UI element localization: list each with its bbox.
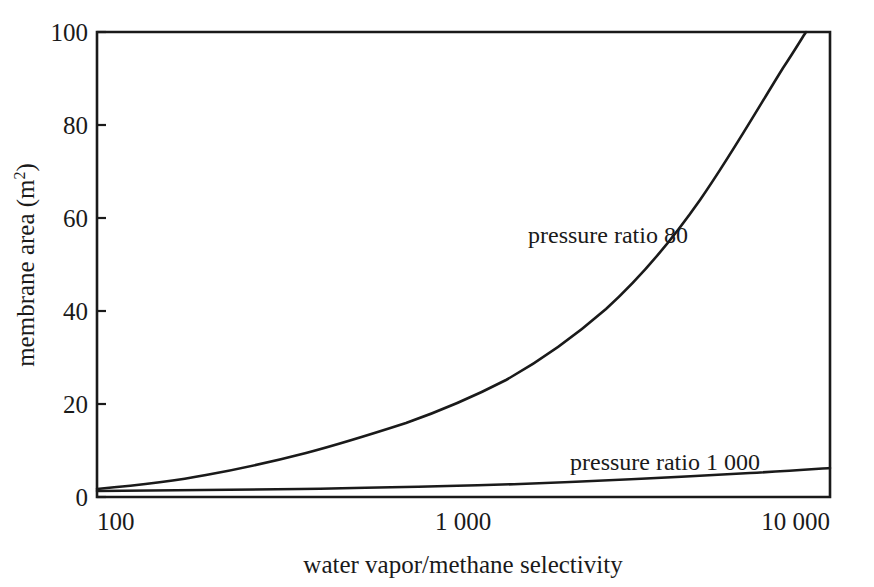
y-tick-label-100: 100 — [51, 19, 89, 46]
y-tick-label-40: 40 — [63, 298, 88, 325]
y-tick-label-20: 20 — [63, 391, 88, 418]
chart-canvas: 0 20 40 60 80 100 100 1 000 10 000 water… — [0, 0, 874, 587]
y-axis-title-close: ) — [12, 163, 40, 171]
chart-background — [0, 0, 874, 587]
x-tick-label-1000: 1 000 — [435, 508, 491, 535]
y-tick-label-80: 80 — [63, 112, 88, 139]
annotation-pressure-ratio-1000: pressure ratio 1 000 — [570, 449, 760, 475]
y-axis-title-base: membrane area (m — [12, 179, 40, 367]
svg-text:membrane area (m2): membrane area (m2) — [11, 163, 40, 367]
x-tick-label-100: 100 — [97, 508, 135, 535]
chart-figure: 0 20 40 60 80 100 100 1 000 10 000 water… — [0, 0, 874, 587]
y-axis-title: membrane area (m2) — [11, 163, 40, 367]
x-tick-label-10000: 10 000 — [761, 508, 830, 535]
annotation-pressure-ratio-80: pressure ratio 80 — [528, 222, 688, 248]
x-axis-title: water vapor/methane selectivity — [303, 551, 623, 578]
y-axis-title-superscript: 2 — [11, 171, 28, 179]
y-tick-label-0: 0 — [76, 484, 89, 511]
y-tick-label-60: 60 — [63, 205, 88, 232]
